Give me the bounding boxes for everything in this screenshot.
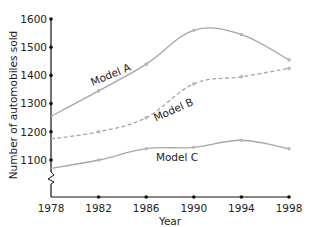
y-tick-label: 1200	[20, 126, 47, 138]
x-axis-title: Year	[158, 215, 182, 227]
y-tick-marker	[49, 74, 53, 78]
data-point	[287, 58, 291, 62]
data-point	[144, 116, 148, 120]
data-point	[192, 146, 196, 150]
series-label-model-b: Model B	[152, 95, 195, 123]
plot-area: 1100120013001400150016001978198219861990…	[7, 13, 302, 227]
x-tick-label: 1990	[180, 202, 207, 214]
x-tick-label: 1994	[228, 202, 255, 214]
data-point	[287, 67, 291, 71]
data-point	[287, 147, 291, 151]
x-tick-label: 1998	[276, 202, 303, 214]
y-tick-label: 1400	[20, 69, 47, 81]
data-point	[192, 28, 196, 32]
series-label-model-c: Model C	[156, 151, 198, 163]
y-tick-marker	[49, 130, 53, 134]
y-axis-title: Number of automobiles sold	[7, 31, 19, 180]
series-line-model-a	[51, 28, 289, 116]
x-tick-marker	[240, 195, 244, 199]
line-chart: 1100120013001400150016001978198219861990…	[0, 0, 310, 227]
data-point	[144, 62, 148, 66]
data-point	[97, 130, 101, 134]
y-tick-label: 1300	[20, 97, 47, 109]
y-tick-marker	[49, 158, 53, 162]
data-point	[240, 33, 244, 37]
x-tick-marker	[97, 195, 101, 199]
data-point	[97, 89, 101, 93]
x-tick-label: 1978	[38, 202, 65, 214]
y-tick-marker	[49, 45, 53, 49]
data-point	[144, 147, 148, 151]
data-point	[240, 75, 244, 79]
x-tick-marker	[287, 195, 291, 199]
data-point	[192, 82, 196, 86]
y-tick-label: 1600	[20, 13, 47, 25]
data-point	[240, 138, 244, 142]
x-tick-label: 1982	[85, 202, 112, 214]
x-tick-marker	[192, 195, 196, 199]
y-tick-marker	[49, 17, 53, 21]
x-tick-marker	[144, 195, 148, 199]
axis-break-icon	[48, 172, 54, 184]
y-tick-marker	[49, 102, 53, 106]
x-tick-label: 1986	[133, 202, 160, 214]
data-point	[97, 158, 101, 162]
y-tick-label: 1100	[20, 154, 47, 166]
y-tick-label: 1500	[20, 41, 47, 53]
